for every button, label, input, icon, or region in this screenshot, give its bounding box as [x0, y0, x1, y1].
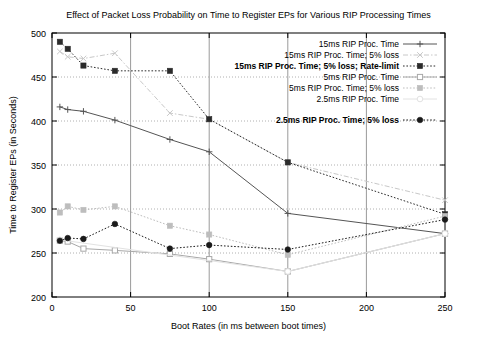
legend-marker [417, 85, 422, 90]
data-point-marker [57, 210, 62, 215]
legend-label: 15ms RIP Proc. Time; 5% loss; Rate-limit [234, 61, 399, 71]
data-point-marker [81, 207, 86, 212]
data-point-marker [57, 238, 63, 244]
data-point-marker [112, 68, 117, 73]
x-tick-label: 200 [359, 303, 374, 313]
legend-entry-1[interactable]: 15ms RIP Proc. Time [319, 39, 437, 49]
data-point-marker [206, 242, 212, 248]
y-tick-label: 500 [31, 29, 46, 39]
data-point-marker [81, 63, 86, 68]
data-point-marker [112, 248, 117, 253]
legend-marker [417, 41, 423, 47]
data-point-marker [207, 232, 212, 237]
data-point-marker [285, 269, 291, 275]
y-tick-label: 350 [31, 161, 46, 171]
legend-entry-4[interactable]: 5ms RIP Proc. Time [324, 72, 437, 82]
legend-marker [417, 74, 422, 79]
x-tick-label: 100 [202, 303, 217, 313]
legend-label: 2.5ms RIP Proc. Time [316, 94, 399, 104]
y-tick-label: 300 [31, 205, 46, 215]
legend-marker [417, 96, 423, 102]
data-point-marker [65, 46, 70, 51]
data-point-marker [81, 236, 87, 242]
legend-label: 15ms RIP Proc. Time [319, 39, 399, 49]
legend-entry-6[interactable]: 2.5ms RIP Proc. Time [316, 94, 437, 104]
series-line [60, 107, 445, 234]
legend-label: 5ms RIP Proc. Time; 5% loss [289, 83, 399, 93]
data-point-marker [285, 247, 291, 253]
data-point-marker [285, 160, 290, 165]
data-point-marker [112, 117, 118, 123]
chart-title: Effect of Packet Loss Probability on Tim… [66, 10, 431, 20]
data-point-marker [442, 217, 448, 223]
legend-marker [417, 63, 422, 68]
data-point-marker [65, 235, 71, 241]
x-tick-label: 250 [437, 303, 452, 313]
data-point-marker [442, 231, 448, 237]
x-tick-label: 0 [49, 303, 54, 313]
legend-entry-2[interactable]: 15ms RIP Proc. Time; 5% loss [284, 50, 437, 60]
data-point-marker [167, 136, 173, 142]
legend-entry-3[interactable]: 15ms RIP Proc. Time; 5% loss; Rate-limit [234, 61, 437, 71]
data-point-marker [167, 223, 172, 228]
chart-container: Effect of Packet Loss Probability on Tim… [0, 0, 481, 341]
data-point-marker [80, 108, 86, 114]
y-tick-label: 450 [31, 73, 46, 83]
data-point-marker [285, 252, 290, 257]
data-point-marker [112, 221, 118, 227]
y-tick-label: 250 [31, 249, 46, 259]
legend-entry-7[interactable]: 2.5ms RIP Proc. Time; 5% loss [276, 115, 437, 125]
data-point-marker [57, 39, 62, 44]
x-axis-title: Boot Rates (in ms between boot times) [171, 321, 326, 331]
data-point-marker [81, 246, 86, 251]
data-point-marker [57, 104, 63, 110]
data-point-marker [167, 246, 173, 252]
data-point-marker [112, 204, 117, 209]
x-tick-label: 50 [126, 303, 136, 313]
legend-label: 15ms RIP Proc. Time; 5% loss [284, 50, 399, 60]
data-point-marker [57, 49, 63, 55]
data-point-marker [65, 106, 71, 112]
legend-marker [417, 117, 423, 123]
legend-label: 5ms RIP Proc. Time [324, 72, 400, 82]
rip-processing-time-line-chart: Effect of Packet Loss Probability on Tim… [0, 0, 481, 341]
data-point-marker [65, 204, 70, 209]
series-4 [57, 231, 447, 274]
legend-entry-5[interactable]: 5ms RIP Proc. Time; 5% loss [289, 83, 437, 93]
x-tick-label: 150 [280, 303, 295, 313]
legend-label: 2.5ms RIP Proc. Time; 5% loss [276, 115, 399, 125]
y-tick-label: 400 [31, 117, 46, 127]
y-tick-label: 200 [31, 293, 46, 303]
data-point-marker [207, 117, 212, 122]
y-axis-title: Time to Register EPs (in Seconds) [8, 96, 18, 234]
data-point-marker [167, 68, 172, 73]
